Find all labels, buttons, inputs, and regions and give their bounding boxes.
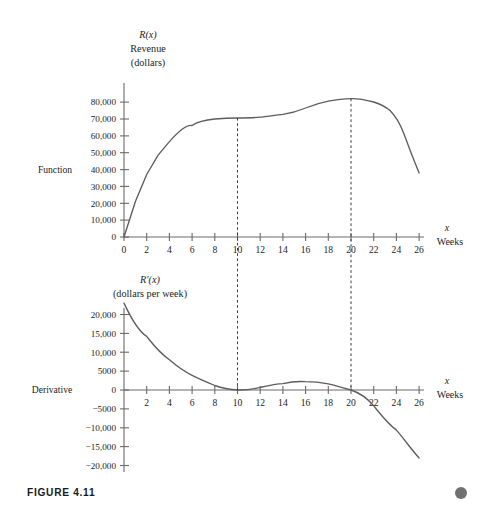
top-xtick-0: 0 [122,244,127,255]
bottom-xtick-10: 10 [233,397,243,408]
top-xtick-6: 6 [190,244,195,255]
bottom-xtick-24: 24 [392,397,402,408]
top-xtick-26: 26 [414,244,424,255]
top-xtick-24: 24 [392,244,402,255]
top-ytick-30000: 30,000 [91,182,117,192]
bottom-ytick-neg20000: −20,000 [86,461,117,471]
top-header-line3: (dollars) [131,57,166,69]
bottom-header-symbol: R′(x) [139,274,160,286]
bottom-ytick-neg15000: −15,000 [86,442,117,452]
revenue-curve [124,99,419,237]
top-ytick-70000: 70,000 [91,114,117,124]
bottom-ytick-5000: 5000 [98,366,117,376]
bottom-xtick-14: 14 [278,397,288,408]
bottom-x-axis-name: x [444,375,450,386]
top-ytick-0: 0 [111,232,116,242]
bottom-ytick-20000: 20,000 [91,310,117,320]
top-x-axis-name: x [444,222,450,233]
top-xtick-14: 14 [278,244,288,255]
bottom-side-label: Derivative [32,384,73,395]
bottom-ytick-neg5000: −5000 [92,404,116,414]
bottom-xtick-18: 18 [324,397,334,408]
bottom-ytick-10000: 10,000 [91,348,117,358]
bottom-xtick-8: 8 [212,397,217,408]
bottom-xtick-2: 2 [144,397,149,408]
bottom-x-axis-units: Weeks [437,389,464,400]
figure-caption: FIGURE 4.11 [27,487,95,498]
bottom-xtick-16: 16 [301,397,311,408]
top-ytick-80000: 80,000 [91,97,117,107]
top-ytick-10000: 10,000 [91,215,117,225]
top-xtick-12: 12 [255,244,265,255]
bottom-xtick-20: 20 [346,397,356,408]
top-xtick-16: 16 [301,244,311,255]
bottom-xtick-6: 6 [190,397,195,408]
gray-bullet-icon [455,487,467,499]
top-ytick-20000: 20,000 [91,199,117,209]
top-x-axis-units: Weeks [437,236,464,247]
top-xtick-2: 2 [144,244,149,255]
top-header-line2: Revenue [130,43,166,54]
top-xtick-22: 22 [369,244,379,255]
top-xtick-8: 8 [212,244,217,255]
bottom-panel-chart: −20,000 −15,000 −10,000 −5000 0 5000 10,… [32,274,464,472]
top-panel-chart: 0 10,000 20,000 30,000 40,000 50,000 60,… [38,29,463,255]
derivative-curve [124,303,419,458]
bottom-ytick-15000: 15,000 [91,329,117,339]
top-header-symbol: R(x) [138,29,157,41]
top-ytick-60000: 60,000 [91,131,117,141]
top-xtick-18: 18 [324,244,334,255]
bottom-xtick-12: 12 [255,397,265,408]
bottom-xtick-26: 26 [414,397,424,408]
top-ytick-40000: 40,000 [91,165,117,175]
top-xtick-4: 4 [167,244,172,255]
bottom-header-line2: (dollars per week) [113,288,187,300]
bottom-xtick-4: 4 [167,397,172,408]
figure-4-11: 0 10,000 20,000 30,000 40,000 50,000 60,… [0,0,494,528]
top-side-label: Function [38,164,72,175]
top-ytick-50000: 50,000 [91,148,117,158]
bottom-ytick-0: 0 [111,385,116,395]
figure-svg: 0 10,000 20,000 30,000 40,000 50,000 60,… [0,0,494,528]
bottom-ytick-neg10000: −10,000 [86,423,117,433]
